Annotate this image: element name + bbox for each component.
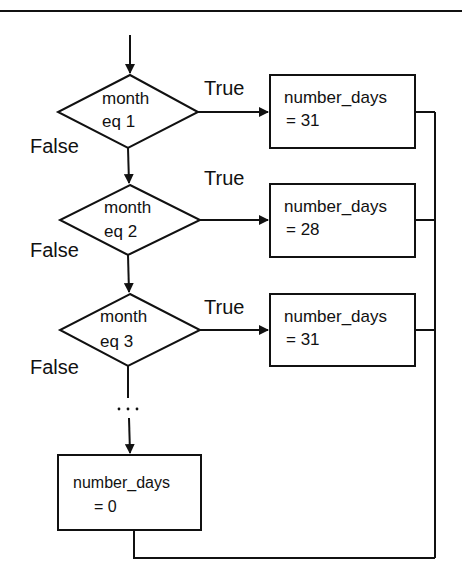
- decision-1-text-line1: month: [102, 88, 149, 110]
- action-1-text-line2: = 31: [286, 110, 320, 132]
- default-arrow: [129, 418, 130, 453]
- decision-2-text-line2: eq 2: [104, 221, 137, 243]
- default-action-text-line2: = 0: [94, 496, 117, 518]
- true-label-3: True: [204, 296, 244, 319]
- action-2-text-line2: = 28: [286, 219, 320, 241]
- action-3-text-line1: number_days: [284, 306, 387, 328]
- decision-diamond-3: [60, 294, 200, 366]
- false-arrow-2: [128, 255, 129, 292]
- decision-diamond-2: [60, 185, 200, 255]
- decision-3-text-line1: month: [100, 306, 147, 328]
- decision-3-text-line2: eq 3: [100, 331, 133, 353]
- action-2-text-line1: number_days: [284, 196, 387, 218]
- merge-line-bottom: [134, 530, 435, 558]
- default-action-text-line1: number_days: [73, 472, 170, 494]
- true-label-1: True: [204, 77, 244, 100]
- false-label-1: False: [30, 135, 79, 158]
- true-label-2: True: [204, 167, 244, 190]
- false-label-3: False: [30, 356, 79, 379]
- false-label-2: False: [30, 239, 79, 262]
- decision-1-text-line2: eq 1: [102, 111, 135, 133]
- action-1-text-line1: number_days: [284, 87, 387, 109]
- decision-2-text-line1: month: [104, 197, 151, 219]
- false-arrow-1: [128, 148, 129, 183]
- action-3-text-line2: = 31: [286, 329, 320, 351]
